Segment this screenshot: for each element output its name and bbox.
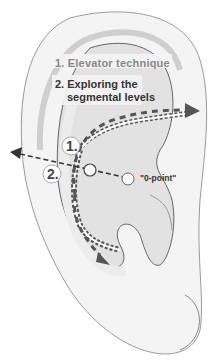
label-exploring-line2: segmental levels [67, 91, 155, 103]
ear-diagram: 1. Elevator technique 2. Exploring the s… [0, 0, 221, 362]
zero-point-marker [122, 173, 134, 185]
spine-point [84, 164, 96, 176]
label-exploring-line1: 2. Exploring the [55, 78, 138, 90]
marker-2: 2. [47, 166, 59, 182]
label-elevator-technique: 1. Elevator technique [55, 57, 170, 69]
arrow-2-head [10, 147, 22, 159]
ear-illustration [0, 0, 221, 362]
marker-1: 1. [66, 138, 78, 154]
label-zero-point: "0-point" [140, 173, 176, 183]
